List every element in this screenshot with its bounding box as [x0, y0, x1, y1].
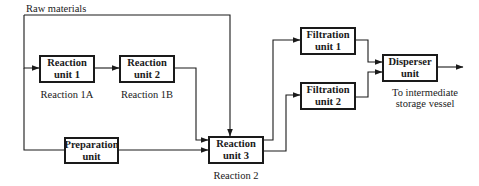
reaction-unit-1-title: Reaction [47, 57, 87, 69]
preparation-unit-box: Preparationunit [64, 137, 119, 164]
filtration-unit-1-title: Filtration [306, 29, 349, 41]
filtration-unit-2-title: Filtration [306, 84, 349, 96]
reaction-2-caption: Reaction 2 [208, 170, 264, 181]
reaction-1b-caption: Reaction 1B [119, 89, 175, 100]
raw-materials-label: Raw materials [26, 3, 86, 14]
output-destination-line2: storage vessel [385, 98, 465, 109]
disperser-unit-subtitle: unit [388, 68, 431, 80]
reaction-1a-caption: Reaction 1A [39, 89, 95, 100]
filtration-unit-2-box: Filtrationunit 2 [300, 82, 356, 110]
reaction-3-to-filtration-1 [263, 40, 300, 140]
preparation-unit-subtitle: unit [64, 151, 118, 163]
raw-to-reaction-1 [24, 15, 39, 68]
filtration-1-to-disperser [355, 40, 382, 62]
reaction-unit-2-title: Reaction [127, 57, 167, 69]
reaction-unit-3-title: Reaction [216, 138, 256, 150]
disperser-unit-title: Disperser [388, 56, 431, 68]
filtration-unit-1-subtitle: unit 1 [306, 41, 349, 53]
preparation-unit-title: Preparation [64, 139, 118, 151]
filtration-unit-1-box: Filtrationunit 1 [300, 27, 356, 55]
disperser-unit-box: Disperserunit [382, 54, 438, 82]
output-destination-label: To intermediate storage vessel [385, 87, 465, 109]
reaction-unit-3-subtitle: unit 3 [216, 150, 256, 162]
reaction-unit-2-box: Reactionunit 2 [119, 55, 175, 83]
filtration-unit-2-subtitle: unit 2 [306, 96, 349, 108]
reaction-unit-2-subtitle: unit 2 [127, 69, 167, 81]
reaction-2-to-reaction-3 [175, 68, 208, 140]
reaction-unit-3-box: Reactionunit 3 [208, 136, 264, 164]
reaction-3-to-filtration-2 [263, 95, 300, 151]
reaction-unit-1-box: Reactionunit 1 [39, 55, 95, 83]
reaction-unit-1-subtitle: unit 1 [47, 69, 87, 81]
filtration-2-to-disperser [355, 72, 382, 97]
output-destination-line1: To intermediate [385, 87, 465, 98]
